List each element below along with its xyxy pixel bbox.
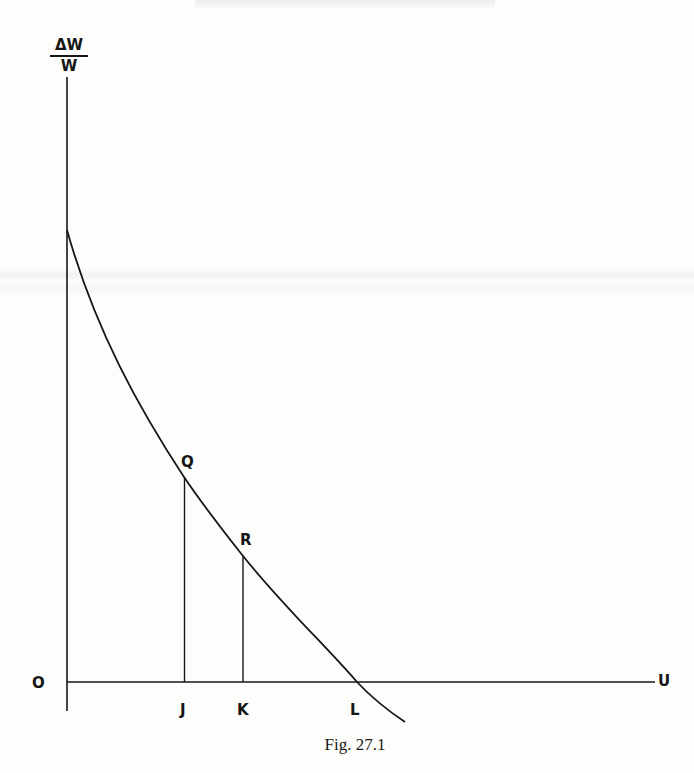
point-r-label: R	[240, 533, 252, 548]
y-axis-label-numerator: ΔW	[50, 38, 88, 57]
origin-label: O	[32, 676, 45, 691]
figure-caption: Fig. 27.1	[255, 735, 455, 755]
book-page: ΔW W O U Q R J K L Fig. 27.1	[0, 0, 694, 773]
point-q-label: Q	[181, 455, 194, 470]
wage-change-diagram	[0, 0, 694, 773]
point-k-label: K	[237, 703, 249, 718]
point-l-label: L	[350, 703, 360, 718]
y-axis-label: ΔW W	[50, 38, 88, 74]
y-axis-label-denominator: W	[50, 57, 88, 74]
x-axis-label: U	[658, 674, 670, 689]
curve	[67, 230, 405, 722]
point-j-label: J	[180, 703, 186, 718]
